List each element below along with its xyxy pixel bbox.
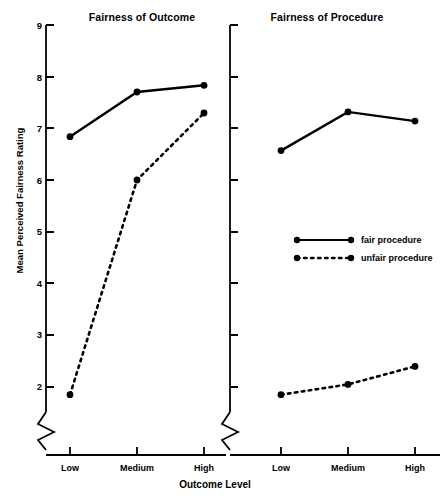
left-axis-break: [38, 412, 54, 450]
legend-entry-fair-procedure: fair procedure: [293, 231, 433, 249]
legend-label-fair-procedure: fair procedure: [361, 235, 422, 245]
right-y-ticks: [230, 25, 238, 387]
legend: fair procedure unfair procedure: [293, 231, 433, 267]
series-left-unfair-procedure: [67, 110, 208, 399]
left-y-ticks: [46, 25, 54, 387]
legend-label-unfair-procedure: unfair procedure: [361, 253, 433, 263]
series-right-fair-procedure: [278, 109, 419, 155]
right-x-ticks: [281, 447, 415, 455]
legend-key-dotted-line: [293, 253, 355, 263]
right-axis-break: [222, 412, 238, 450]
legend-key-solid-line: [293, 235, 355, 245]
left-x-ticks: [70, 447, 204, 455]
series-right-unfair-procedure: [278, 363, 419, 398]
legend-entry-unfair-procedure: unfair procedure: [293, 249, 433, 267]
figure: Fairness of Outcome Fairness of Procedur…: [0, 0, 447, 498]
